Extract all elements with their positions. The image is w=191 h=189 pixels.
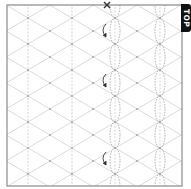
grid [0, 0, 191, 189]
top-label-tab: TOP [181, 4, 191, 32]
top-label: TOP [182, 9, 191, 27]
paper-frame [7, 5, 182, 186]
crease-pattern-diagram [0, 0, 191, 189]
fold-arrows [103, 24, 106, 165]
